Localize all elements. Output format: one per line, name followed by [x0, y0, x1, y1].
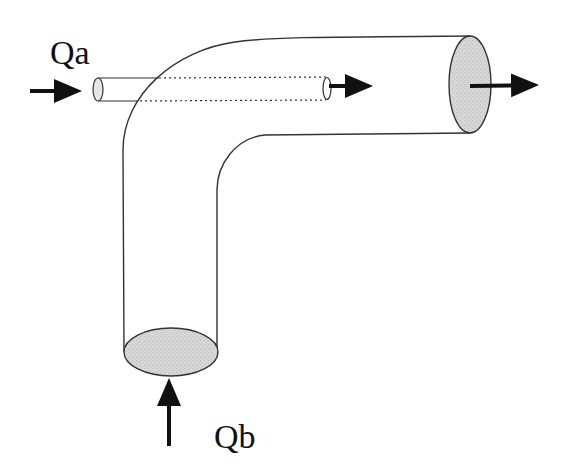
pipe-outer-wall	[123, 36, 470, 352]
injection-tube	[93, 77, 331, 101]
elbow-pipe	[123, 36, 470, 352]
tube-inlet-section	[93, 78, 103, 101]
inlet-b-cross-section	[124, 328, 218, 376]
flow-arrows	[30, 85, 535, 446]
tube-hidden-edge-bottom	[135, 100, 326, 101]
tube-hidden-edge-top	[159, 77, 326, 78]
arrow-outlet-icon	[470, 85, 535, 86]
label-qb: Qb	[214, 418, 256, 455]
tube-outlet-section	[323, 78, 331, 100]
label-qa: Qa	[50, 34, 90, 71]
pipe-diagram: Qa Qb	[0, 0, 571, 476]
pipe-inner-wall	[217, 133, 470, 352]
